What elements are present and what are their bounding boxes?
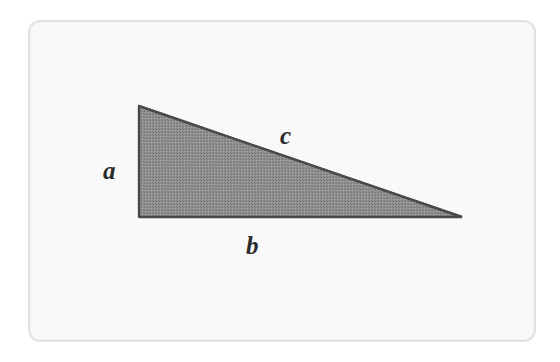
side-label-a: a <box>103 158 116 183</box>
triangle-diagram-canvas <box>0 0 560 362</box>
figure-root: a b c <box>0 0 560 362</box>
side-label-b: b <box>246 233 259 258</box>
side-label-c: c <box>280 123 291 148</box>
